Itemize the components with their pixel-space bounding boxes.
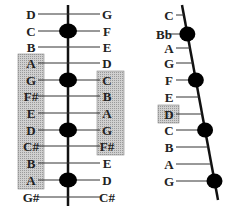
note-label-right: E [103,40,112,55]
right-string-diagram: CBbAGFEDCBAG [156,5,222,200]
note-label: Bb [156,27,172,42]
note-dot [188,73,204,88]
note-label-right: G [102,123,112,138]
note-label-right: C [102,73,111,88]
note-label-left: D [26,7,35,22]
note-dot [197,123,213,138]
note-label: E [165,90,174,105]
fretboard-diagram: DGCFBEADGCF#BEADGC#F#BEADG#C# CBbAGFEDCB… [0,0,241,207]
note-label-left: B [27,156,36,171]
note-label: D [164,107,173,122]
note-dot [206,174,222,189]
note-label-left: D [26,123,35,138]
note-dot [59,123,77,138]
note-label-left: G [26,73,36,88]
note-label: C [164,123,173,138]
note-label-left: A [26,56,36,71]
note-label-left: C [26,24,35,39]
note-label-right: D [102,56,111,71]
note-label-left: G# [23,190,40,205]
note-label: G [164,56,174,71]
note-label-left: C# [23,139,39,154]
note-dot [59,173,77,188]
note-label-right: D [102,173,111,188]
note-label-right: F# [100,139,115,154]
note-label: C [164,8,173,23]
note-label-right: B [103,89,112,104]
note-label-right: G [102,7,112,22]
note-label-right: E [103,156,112,171]
left-string-diagram: DGCFBEADGCF#BEADGC#F#BEADG#C# [18,5,124,206]
note-label: G [164,174,174,189]
note-label: A [164,41,174,56]
note-label-left: B [27,40,36,55]
note-label-right: A [102,106,112,121]
note-dot [59,24,77,39]
note-label-right: F [103,24,111,39]
note-label-left: A [26,173,36,188]
note-label: B [165,140,174,155]
note-label-right: C# [99,190,115,205]
note-label: A [164,157,174,172]
note-label-left: E [27,106,36,121]
note-dot [179,27,195,42]
note-label: F [165,73,173,88]
note-dot [59,73,77,88]
note-label-left: F# [24,89,39,104]
